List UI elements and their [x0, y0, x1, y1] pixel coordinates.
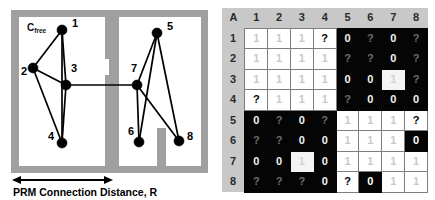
matrix-column-header-7[interactable]: 7 [382, 8, 405, 28]
matrix-cell-r3c3[interactable]: 1 [290, 69, 313, 90]
prm-roadmap-svg: 12345678 Cfree PRM Connection Distance, … [0, 0, 215, 200]
matrix-cell-r6c7[interactable]: 1 [382, 131, 405, 152]
matrix-cell-r8c1[interactable]: ? [245, 172, 268, 193]
matrix-cell-r4c1[interactable]: ? [245, 90, 268, 111]
matrix-cell-r6c6[interactable]: 1 [359, 131, 382, 152]
matrix-column-header-6[interactable]: 6 [359, 8, 382, 28]
matrix-cell-r2c8[interactable]: ? [405, 49, 428, 70]
matrix-cell-r1c8[interactable]: ? [405, 28, 428, 49]
matrix-row-header-3[interactable]: 3 [222, 69, 245, 90]
matrix-cell-r8c8[interactable]: 1 [405, 172, 428, 193]
roadmap-node-3[interactable] [61, 80, 71, 90]
matrix-row: 31111001? [222, 69, 428, 90]
matrix-body: 1111?0?0?21111??0?31111001?4?111?00050?0… [222, 28, 428, 192]
matrix-cell-r2c2[interactable]: 1 [268, 49, 291, 70]
matrix-cell-r3c1[interactable]: 1 [245, 69, 268, 90]
matrix-cell-r5c6[interactable]: 1 [359, 110, 382, 131]
matrix-cell-r6c4[interactable]: 0 [313, 131, 336, 152]
matrix-cell-r1c3[interactable]: 1 [290, 28, 313, 49]
matrix-cell-r7c8[interactable]: 1 [405, 151, 428, 172]
matrix-cell-r3c6[interactable]: 0 [359, 69, 382, 90]
matrix-row-header-2[interactable]: 2 [222, 49, 245, 70]
matrix-cell-r1c6[interactable]: ? [359, 28, 382, 49]
roadmap-node-1[interactable] [57, 25, 67, 35]
matrix-cell-r2c4[interactable]: 1 [313, 49, 336, 70]
roadmap-node-2[interactable] [28, 63, 38, 73]
roadmap-node-5[interactable] [152, 28, 162, 38]
matrix-cell-r4c2[interactable]: 1 [268, 90, 291, 111]
matrix-cell-r5c3[interactable]: 0 [290, 110, 313, 131]
matrix-column-header-3[interactable]: 3 [290, 8, 313, 28]
matrix-row-header-6[interactable]: 6 [222, 131, 245, 152]
matrix-row-header-7[interactable]: 7 [222, 151, 245, 172]
matrix-cell-r3c5[interactable]: 0 [336, 69, 359, 90]
matrix-cell-r7c7[interactable]: 1 [382, 151, 405, 172]
roadmap-node-label-4: 4 [48, 130, 55, 142]
matrix-cell-r1c1[interactable]: 1 [245, 28, 268, 49]
roadmap-node-label-6: 6 [128, 125, 134, 137]
matrix-column-header-1[interactable]: 1 [245, 8, 268, 28]
matrix-cell-r2c3[interactable]: 1 [290, 49, 313, 70]
matrix-cell-r1c5[interactable]: 0 [336, 28, 359, 49]
matrix-column-header-4[interactable]: 4 [313, 8, 336, 28]
matrix-cell-r8c7[interactable]: 1 [382, 172, 405, 193]
matrix-cell-r8c5[interactable]: ? [336, 172, 359, 193]
matrix-cell-r2c6[interactable]: ? [359, 49, 382, 70]
matrix-cell-r7c3[interactable]: 1 [290, 151, 313, 172]
matrix-cell-r1c2[interactable]: 1 [268, 28, 291, 49]
matrix-cell-r1c7[interactable]: 0 [382, 28, 405, 49]
matrix-cell-r5c8[interactable]: ? [405, 110, 428, 131]
matrix-cell-r4c7[interactable]: 0 [382, 90, 405, 111]
matrix-cell-r3c7[interactable]: 1 [382, 69, 405, 90]
matrix-column-header-5[interactable]: 5 [336, 8, 359, 28]
matrix-row-header-1[interactable]: 1 [222, 28, 245, 49]
matrix-cell-r8c4[interactable]: 0 [313, 172, 336, 193]
matrix-cell-r8c2[interactable]: ? [268, 172, 291, 193]
matrix-cell-r6c3[interactable]: 0 [290, 131, 313, 152]
matrix-cell-r3c2[interactable]: 1 [268, 69, 291, 90]
matrix-row-header-8[interactable]: 8 [222, 172, 245, 193]
matrix-cell-r2c1[interactable]: 1 [245, 49, 268, 70]
matrix-row: 4?111?000 [222, 90, 428, 111]
matrix-row-header-5[interactable]: 5 [222, 110, 245, 131]
matrix-cell-r6c1[interactable]: ? [245, 131, 268, 152]
matrix-cell-r4c3[interactable]: 1 [290, 90, 313, 111]
matrix-row-header-4[interactable]: 4 [222, 90, 245, 111]
roadmap-node-label-1: 1 [72, 17, 78, 29]
connection-distance-arrow [12, 176, 113, 184]
matrix-cell-r5c7[interactable]: 1 [382, 110, 405, 131]
matrix-cell-r6c5[interactable]: 1 [336, 131, 359, 152]
matrix-cell-r5c2[interactable]: ? [268, 110, 291, 131]
matrix-cell-r4c4[interactable]: 1 [313, 90, 336, 111]
roadmap-node-8[interactable] [174, 136, 184, 146]
matrix-cell-r6c2[interactable]: ? [268, 131, 291, 152]
matrix-cell-r8c6[interactable]: 0 [359, 172, 382, 193]
matrix-cell-r4c5[interactable]: ? [336, 90, 359, 111]
matrix-cell-r7c1[interactable]: 0 [245, 151, 268, 172]
matrix-cell-r1c4[interactable]: ? [313, 28, 336, 49]
roadmap-node-7[interactable] [132, 80, 142, 90]
matrix-cell-r7c2[interactable]: 0 [268, 151, 291, 172]
matrix-cell-r8c3[interactable]: ? [290, 172, 313, 193]
matrix-cell-r5c1[interactable]: 0 [245, 110, 268, 131]
roadmap-node-label-7: 7 [131, 62, 137, 74]
matrix-cell-r5c4[interactable]: ? [313, 110, 336, 131]
matrix-cell-r3c4[interactable]: 1 [313, 69, 336, 90]
arrowhead-left-icon [12, 176, 21, 184]
roadmap-node-4[interactable] [57, 138, 67, 148]
matrix-cell-r5c5[interactable]: 1 [336, 110, 359, 131]
matrix-cell-r7c6[interactable]: 1 [359, 151, 382, 172]
matrix-header-row: A12345678 [222, 8, 428, 28]
matrix-column-header-8[interactable]: 8 [405, 8, 428, 28]
matrix-cell-r7c4[interactable]: 0 [313, 151, 336, 172]
roadmap-node-6[interactable] [134, 137, 144, 147]
matrix-cell-r2c7[interactable]: 0 [382, 49, 405, 70]
cfree-label-subscript: free [34, 27, 46, 34]
matrix-cell-r4c8[interactable]: 0 [405, 90, 428, 111]
matrix-cell-r7c5[interactable]: 1 [336, 151, 359, 172]
matrix-cell-r3c8[interactable]: ? [405, 69, 428, 90]
matrix-cell-r4c6[interactable]: 0 [359, 90, 382, 111]
matrix-cell-r2c5[interactable]: ? [336, 49, 359, 70]
matrix-column-header-2[interactable]: 2 [268, 8, 291, 28]
matrix-cell-r6c8[interactable]: 0 [405, 131, 428, 152]
